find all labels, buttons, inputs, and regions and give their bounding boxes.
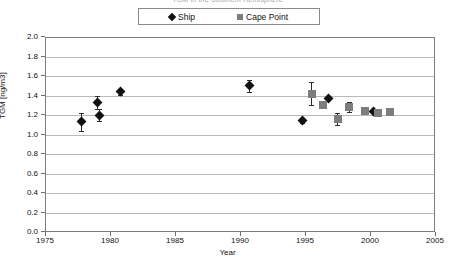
y-tick-mark — [41, 95, 45, 96]
y-tick-label: 0.6 — [27, 169, 38, 178]
gridline — [46, 174, 434, 175]
data-point — [114, 86, 126, 98]
legend-item-ship: Ship — [169, 12, 195, 22]
y-tick-mark — [41, 36, 45, 37]
plot-area — [45, 37, 435, 232]
x-tick-label: 1975 — [25, 236, 65, 245]
x-tick-label: 1980 — [90, 236, 130, 245]
error-bar-cap — [309, 105, 314, 106]
gridline — [46, 154, 434, 155]
y-tick-mark — [41, 56, 45, 57]
square-marker-icon — [319, 101, 327, 109]
data-point — [317, 99, 329, 111]
gridline — [46, 76, 434, 77]
square-marker-icon — [361, 107, 369, 115]
gridline — [46, 135, 434, 136]
x-tick-label: 1990 — [220, 236, 260, 245]
y-tick-mark — [41, 212, 45, 213]
gridline — [46, 57, 434, 58]
x-tick-label: 1995 — [285, 236, 325, 245]
x-tick-label: 2000 — [350, 236, 390, 245]
data-point — [75, 116, 87, 128]
data-point — [296, 115, 308, 127]
gridline — [46, 213, 434, 214]
y-axis-title: TGM [ng/m3] — [0, 72, 7, 119]
error-bar-cap — [335, 125, 340, 126]
diamond-marker-icon — [92, 97, 102, 107]
error-bar-cap — [347, 112, 352, 113]
y-tick-mark — [41, 75, 45, 76]
square-marker-icon — [308, 90, 316, 98]
chart-title: TGM in the Southern Hemisphere — [0, 0, 455, 3]
legend-item-cape-point: Cape Point — [237, 12, 288, 22]
square-marker-icon — [374, 109, 382, 117]
x-tick-label: 1985 — [155, 236, 195, 245]
y-tick-mark — [41, 173, 45, 174]
data-point — [372, 107, 384, 119]
data-point — [332, 113, 344, 125]
error-bar-cap — [79, 113, 84, 114]
diamond-marker-icon — [95, 110, 105, 120]
data-point — [94, 109, 106, 121]
chart-legend: Ship Cape Point — [138, 8, 320, 25]
data-point — [91, 96, 103, 108]
error-bar-cap — [247, 92, 252, 93]
error-bar-cap — [97, 121, 102, 122]
legend-label-cape-point: Cape Point — [246, 12, 288, 22]
square-marker-icon — [237, 14, 243, 20]
y-tick-label: 0.4 — [27, 188, 38, 197]
y-tick-label: 0.8 — [27, 149, 38, 158]
data-point — [343, 101, 355, 113]
y-tick-label: 1.0 — [27, 130, 38, 139]
data-point — [359, 105, 371, 117]
square-marker-icon — [386, 108, 394, 116]
data-point — [243, 80, 255, 92]
x-axis-title: Year — [0, 248, 455, 257]
square-marker-icon — [345, 103, 353, 111]
y-tick-mark — [41, 153, 45, 154]
chart-container: TGM in the Southern Hemisphere Ship Cape… — [0, 0, 455, 266]
error-bar-cap — [309, 82, 314, 83]
data-point — [384, 106, 396, 118]
y-tick-mark — [41, 134, 45, 135]
y-tick-mark — [41, 192, 45, 193]
diamond-marker-icon — [76, 117, 86, 127]
error-bar-cap — [335, 113, 340, 114]
y-tick-mark — [41, 114, 45, 115]
y-tick-label: 1.6 — [27, 71, 38, 80]
diamond-marker-icon — [168, 12, 176, 20]
data-point — [306, 88, 318, 100]
gridline — [46, 193, 434, 194]
diamond-marker-icon — [297, 116, 307, 126]
x-tick-label: 2005 — [415, 236, 455, 245]
y-tick-label: 0.2 — [27, 208, 38, 217]
square-marker-icon — [334, 115, 342, 123]
y-tick-label: 1.2 — [27, 110, 38, 119]
diamond-marker-icon — [244, 81, 254, 91]
error-bar-cap — [79, 131, 84, 132]
y-tick-label: 1.8 — [27, 52, 38, 61]
y-tick-label: 1.4 — [27, 91, 38, 100]
legend-label-ship: Ship — [178, 12, 195, 22]
gridline — [46, 96, 434, 97]
y-tick-label: 0.0 — [27, 227, 38, 236]
y-tick-label: 2.0 — [27, 32, 38, 41]
